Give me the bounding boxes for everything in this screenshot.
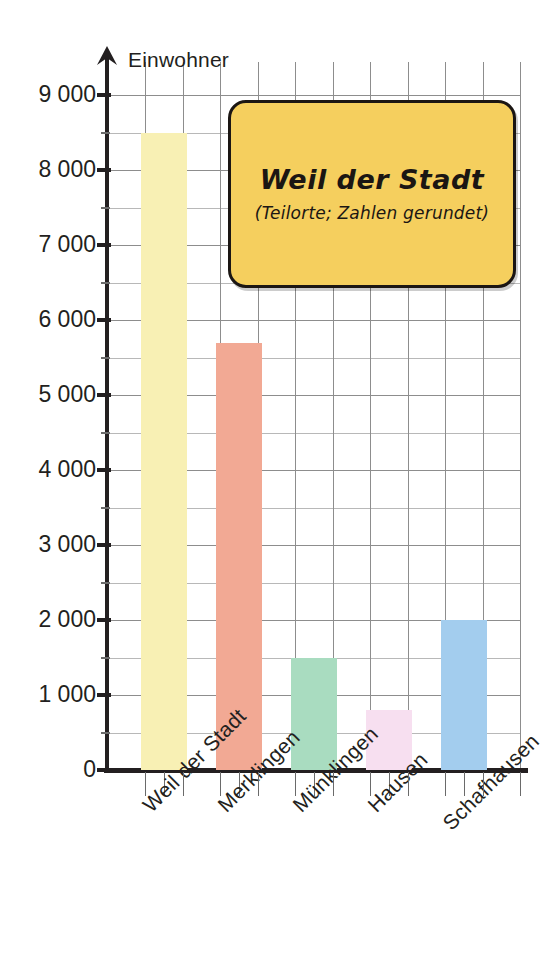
y-tick-mark xyxy=(97,393,111,397)
y-tick-label: 5 000 xyxy=(10,381,96,408)
x-tick-mark xyxy=(520,772,521,796)
x-tick-mark xyxy=(483,772,484,796)
y-tick-mark-minor xyxy=(101,432,110,434)
y-tick-label: 7 000 xyxy=(10,231,96,258)
up-arrow-icon xyxy=(96,46,118,70)
y-tick-mark xyxy=(97,768,111,772)
callout-subtitle: (Teilorte; Zahlen gerundet) xyxy=(241,204,503,223)
gridline-horizontal xyxy=(108,95,520,96)
y-axis-ticks: 01 0002 0003 0004 0005 0006 0007 0008 00… xyxy=(0,0,96,974)
y-tick-mark-minor xyxy=(101,132,110,134)
x-tick-mark xyxy=(145,772,146,796)
chart-canvas: Einwohner 01 0002 0003 0004 0005 0006 00… xyxy=(0,0,560,974)
x-tick-mark xyxy=(220,772,221,796)
y-tick-mark xyxy=(97,693,111,697)
y-tick-label: 1 000 xyxy=(10,681,96,708)
y-axis-title: Einwohner xyxy=(128,48,229,72)
y-tick-label: 9 000 xyxy=(10,81,96,108)
y-tick-mark-minor xyxy=(101,582,110,584)
y-tick-mark xyxy=(97,468,111,472)
x-tick-mark xyxy=(295,772,296,796)
y-tick-mark-minor xyxy=(101,657,110,659)
chart-title-callout: Weil der Stadt (Teilorte; Zahlen gerunde… xyxy=(228,100,516,288)
y-tick-mark xyxy=(97,93,111,97)
y-tick-mark xyxy=(97,618,111,622)
x-tick-mark xyxy=(183,772,184,796)
y-tick-mark xyxy=(97,543,111,547)
gridline-vertical xyxy=(520,62,521,770)
y-tick-mark-minor xyxy=(101,507,110,509)
y-tick-mark-minor xyxy=(101,207,110,209)
y-tick-mark-minor xyxy=(101,357,110,359)
callout-title: Weil der Stadt xyxy=(241,165,503,195)
x-tick-mark xyxy=(258,772,259,796)
y-tick-label: 6 000 xyxy=(10,306,96,333)
y-tick-mark xyxy=(97,168,111,172)
y-tick-mark-minor xyxy=(101,732,110,734)
x-tick-mark xyxy=(445,772,446,796)
y-tick-mark-minor xyxy=(101,282,110,284)
x-tick-mark xyxy=(408,772,409,796)
y-tick-label: 2 000 xyxy=(10,606,96,633)
bar-schafhausen xyxy=(441,620,487,770)
y-tick-label: 0 xyxy=(10,756,96,783)
y-tick-label: 3 000 xyxy=(10,531,96,558)
bar-münklingen xyxy=(291,658,337,771)
y-tick-mark xyxy=(97,318,111,322)
bar-weil-der-stadt xyxy=(141,133,187,771)
x-tick-mark xyxy=(370,772,371,796)
bar-merklingen xyxy=(216,343,262,771)
y-tick-label: 4 000 xyxy=(10,456,96,483)
y-axis-line xyxy=(105,55,109,773)
y-tick-mark xyxy=(97,243,111,247)
x-tick-mark xyxy=(333,772,334,796)
y-tick-label: 8 000 xyxy=(10,156,96,183)
